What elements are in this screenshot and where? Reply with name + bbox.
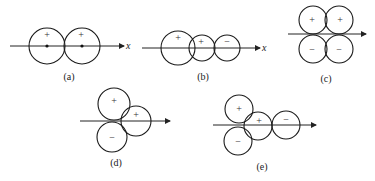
panel-label: (e): [256, 161, 267, 173]
panel-label: (b): [197, 71, 209, 83]
phase-sign: −: [109, 132, 115, 143]
nucleus-dot: [80, 44, 83, 47]
phase-sign: +: [111, 95, 117, 106]
panel-e: + + − − (e): [213, 95, 316, 173]
phase-sign: +: [309, 14, 315, 25]
panel-d: + + − (d): [80, 88, 170, 169]
x-axis-label: x: [125, 40, 131, 51]
phase-sign: −: [309, 44, 315, 55]
phase-sign: +: [236, 103, 242, 114]
x-axis-label: x: [261, 42, 267, 53]
panel-label: (c): [320, 73, 331, 85]
phase-sign: −: [283, 114, 289, 125]
phase-sign: +: [175, 32, 181, 43]
panel-label: (a): [63, 71, 74, 83]
phase-sign: −: [336, 44, 342, 55]
phase-sign: +: [78, 29, 84, 40]
phase-sign: −: [235, 136, 241, 147]
orbital-overlap-diagram: x + + (a) x + + − (b) + + − − (c): [0, 0, 375, 181]
panel-b: x + + − (b): [142, 31, 267, 83]
panel-c: + + − − (c): [288, 6, 366, 85]
phase-sign: +: [198, 36, 204, 47]
phase-sign: +: [133, 109, 139, 120]
panel-a: x + + (a): [10, 28, 131, 83]
phase-sign: +: [337, 14, 343, 25]
phase-sign: +: [44, 29, 50, 40]
panel-label: (d): [110, 157, 122, 169]
nucleus-dot: [45, 44, 48, 47]
phase-sign: +: [256, 115, 262, 126]
phase-sign: −: [224, 36, 230, 47]
